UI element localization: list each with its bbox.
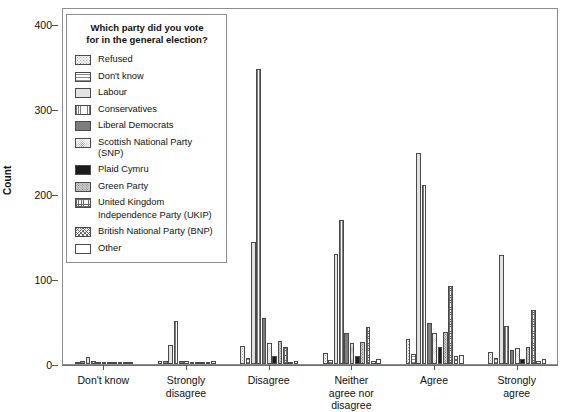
legend-swatch-icon xyxy=(75,198,91,208)
bar[interactable] xyxy=(128,362,133,364)
bar[interactable] xyxy=(294,361,299,364)
bar[interactable] xyxy=(360,342,365,364)
bar[interactable] xyxy=(499,255,504,364)
bar[interactable] xyxy=(488,352,493,364)
bar[interactable] xyxy=(443,332,448,364)
bar[interactable] xyxy=(376,359,381,364)
legend-item-label: Liberal Democrats xyxy=(98,120,173,131)
bar[interactable] xyxy=(515,348,520,364)
legend-item[interactable]: Liberal Democrats xyxy=(75,120,219,131)
bar[interactable] xyxy=(206,362,211,364)
bar[interactable] xyxy=(526,347,531,364)
legend-item-label: Green Party xyxy=(98,181,148,192)
bar[interactable] xyxy=(75,362,80,364)
bar[interactable] xyxy=(158,361,163,364)
bar[interactable] xyxy=(448,286,453,364)
bar[interactable] xyxy=(344,333,349,364)
bar[interactable] xyxy=(510,350,515,364)
legend-item[interactable]: Green Party xyxy=(75,181,219,192)
legend-item[interactable]: United Kingdom xyxy=(75,197,219,208)
bar[interactable] xyxy=(531,310,536,364)
y-tick-mark xyxy=(52,25,58,26)
bar[interactable] xyxy=(262,318,267,364)
bar[interactable] xyxy=(86,357,91,364)
legend-item[interactable]: Refused xyxy=(75,54,219,65)
bar[interactable] xyxy=(288,362,293,364)
legend-item[interactable]: British National Party (BNP) xyxy=(75,226,219,237)
legend-item[interactable]: Scottish National Party (SNP) xyxy=(75,137,219,159)
legend-item[interactable]: Plaid Cymru xyxy=(75,164,219,175)
bar[interactable] xyxy=(118,362,123,364)
bar[interactable] xyxy=(371,361,376,364)
bar[interactable] xyxy=(168,345,173,364)
bar[interactable] xyxy=(102,362,107,364)
bar[interactable] xyxy=(459,355,464,364)
x-tick-label: Don't know xyxy=(61,374,145,387)
bar[interactable] xyxy=(163,361,168,364)
bar[interactable] xyxy=(91,361,96,364)
bar[interactable] xyxy=(256,69,261,364)
legend-item[interactable]: Conservatives xyxy=(75,104,219,115)
bar[interactable] xyxy=(494,358,499,364)
bar[interactable] xyxy=(422,185,427,364)
bar[interactable] xyxy=(123,362,128,364)
bar[interactable] xyxy=(267,343,272,364)
legend-item-label: Independence Party (UKIP) xyxy=(98,210,212,221)
legend-item-continuation[interactable]: Independence Party (UKIP) xyxy=(75,210,219,221)
bar[interactable] xyxy=(427,323,432,364)
bar[interactable] xyxy=(96,362,101,364)
bar[interactable] xyxy=(454,356,459,365)
bar[interactable] xyxy=(323,353,328,364)
bar[interactable] xyxy=(520,359,525,364)
y-tick-label: 0 xyxy=(18,359,52,371)
x-tick-mark xyxy=(269,365,270,370)
bar[interactable] xyxy=(366,327,371,364)
bar[interactable] xyxy=(107,362,112,364)
y-tick-mark xyxy=(52,280,58,281)
legend-item-label: Plaid Cymru xyxy=(98,164,149,175)
x-tick-label: Strongly agree xyxy=(475,374,559,399)
bar[interactable] xyxy=(179,361,184,364)
bar[interactable] xyxy=(411,354,416,364)
bar[interactable] xyxy=(200,362,205,364)
bar[interactable] xyxy=(112,362,117,364)
bar[interactable] xyxy=(278,341,283,364)
y-tick-label: 300 xyxy=(18,104,52,116)
x-tick-label: Agree xyxy=(392,374,476,387)
bar[interactable] xyxy=(80,361,85,364)
bar[interactable] xyxy=(350,343,355,364)
bar[interactable] xyxy=(542,359,547,364)
bar[interactable] xyxy=(190,362,195,364)
legend-item[interactable]: Labour xyxy=(75,87,219,98)
x-tick-mark xyxy=(434,365,435,370)
bar[interactable] xyxy=(246,358,251,364)
legend-item[interactable]: Other xyxy=(75,243,219,254)
bar[interactable] xyxy=(339,220,344,365)
chart-legend: Which party did you vote for in the gene… xyxy=(66,14,227,263)
y-tick-label: 200 xyxy=(18,189,52,201)
bar[interactable] xyxy=(504,326,509,364)
bar[interactable] xyxy=(416,153,421,364)
y-tick-label: 400 xyxy=(18,19,52,31)
bar[interactable] xyxy=(355,356,360,365)
bar[interactable] xyxy=(240,346,245,364)
bar[interactable] xyxy=(174,321,179,364)
y-tick-mark xyxy=(52,195,58,196)
bar[interactable] xyxy=(328,360,333,364)
legend-item[interactable]: Don't know xyxy=(75,71,219,82)
bar[interactable] xyxy=(195,362,200,364)
bar[interactable] xyxy=(272,356,277,365)
legend-swatch-icon xyxy=(75,182,91,192)
bar[interactable] xyxy=(406,339,411,365)
bar[interactable] xyxy=(283,347,288,364)
bar[interactable] xyxy=(251,242,256,364)
bar[interactable] xyxy=(536,361,541,364)
legend-item-label: United Kingdom xyxy=(98,197,164,208)
bar[interactable] xyxy=(432,333,437,364)
bar[interactable] xyxy=(211,361,216,364)
bar[interactable] xyxy=(438,347,443,364)
legend-item-label: Refused xyxy=(98,54,133,65)
bar[interactable] xyxy=(334,254,339,365)
legend-item-label: Don't know xyxy=(98,71,144,82)
bar[interactable] xyxy=(184,361,189,364)
